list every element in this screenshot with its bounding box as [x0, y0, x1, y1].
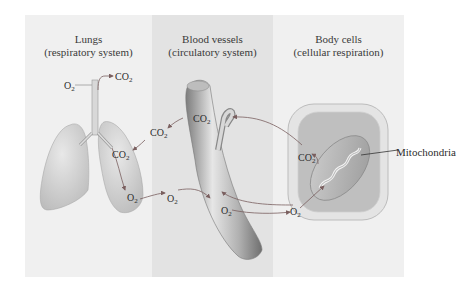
- label-co2-lung: CO2: [112, 150, 129, 163]
- label-o2-vessel: O2: [221, 206, 232, 219]
- label-o2-inhale: O2: [64, 81, 75, 94]
- label-o2-cell: O2: [290, 207, 301, 220]
- label-o2-lung: O2: [127, 193, 138, 206]
- diagram-artwork: [0, 0, 475, 289]
- label-mitochondria: Mitochondria: [396, 147, 456, 157]
- label-co2-vessel: CO2: [193, 114, 210, 127]
- label-co2-cell: CO2: [298, 153, 315, 166]
- blood-vessel-illustration: [186, 80, 262, 259]
- label-co2-exhale: CO2: [115, 72, 132, 85]
- label-o2-between: O2: [167, 194, 178, 207]
- label-co2-between: CO2: [150, 128, 167, 141]
